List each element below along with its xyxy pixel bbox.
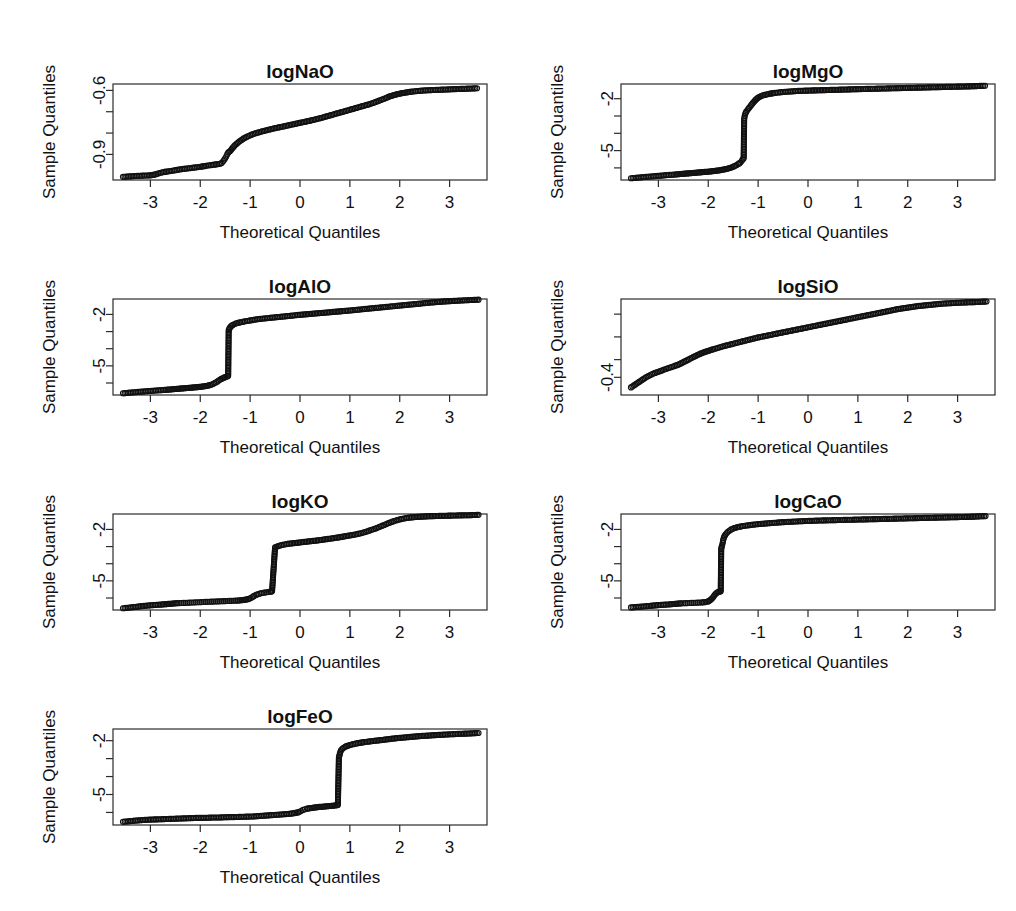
panel-title: logMgO xyxy=(773,62,844,82)
x-tick-label: 3 xyxy=(953,408,962,427)
x-tick-label: -3 xyxy=(143,623,158,642)
x-axis-title: Theoretical Quantiles xyxy=(220,223,381,242)
x-tick-label: 1 xyxy=(853,623,862,642)
x-axis-title: Theoretical Quantiles xyxy=(728,653,889,672)
x-tick-label: -1 xyxy=(243,193,258,212)
x-tick-label: -1 xyxy=(243,623,258,642)
y-tick-label: -5 xyxy=(598,143,617,158)
x-tick-label: -1 xyxy=(751,408,766,427)
x-tick-label: -3 xyxy=(143,838,158,857)
x-axis-title: Theoretical Quantiles xyxy=(728,438,889,457)
plot-frame xyxy=(621,514,995,610)
x-tick-label: 3 xyxy=(953,623,962,642)
x-tick-label: -2 xyxy=(701,408,716,427)
x-tick-label: -1 xyxy=(243,838,258,857)
plot-frame xyxy=(113,84,487,180)
x-tick-label: 1 xyxy=(853,408,862,427)
data-points xyxy=(120,86,479,180)
x-tick-label: 2 xyxy=(395,408,404,427)
x-tick-label: -3 xyxy=(651,193,666,212)
x-tick-label: 3 xyxy=(445,193,454,212)
x-tick-label: 0 xyxy=(295,838,304,857)
data-points xyxy=(120,297,481,396)
x-tick-label: -3 xyxy=(651,623,666,642)
y-axis-title: Sample Quantiles xyxy=(40,710,59,844)
x-tick-label: -3 xyxy=(651,408,666,427)
x-axis-title: Theoretical Quantiles xyxy=(220,438,381,457)
x-tick-label: -2 xyxy=(701,623,716,642)
data-points xyxy=(120,730,481,824)
x-tick-label: -1 xyxy=(751,193,766,212)
x-tick-label: 2 xyxy=(395,623,404,642)
x-tick-label: -2 xyxy=(193,623,208,642)
x-tick-label: 3 xyxy=(445,623,454,642)
x-tick-label: 0 xyxy=(803,408,812,427)
x-tick-label: -2 xyxy=(193,193,208,212)
x-tick-label: 1 xyxy=(345,193,354,212)
data-points xyxy=(120,512,481,610)
panel-title: logFeO xyxy=(267,707,332,727)
x-axis-title: Theoretical Quantiles xyxy=(220,868,381,887)
y-tick-label: -0.9 xyxy=(90,140,109,169)
x-axis-title: Theoretical Quantiles xyxy=(220,653,381,672)
x-tick-label: -1 xyxy=(243,408,258,427)
plot-frame xyxy=(621,84,995,180)
y-axis-title: Sample Quantiles xyxy=(40,65,59,199)
x-tick-label: 3 xyxy=(445,408,454,427)
x-tick-label: -2 xyxy=(193,838,208,857)
x-tick-label: -1 xyxy=(751,623,766,642)
data-points xyxy=(628,299,989,390)
y-tick-label: -2 xyxy=(598,522,617,537)
qq-panel-logFeO: logFeO-3-2-10123-2-5Theoretical Quantile… xyxy=(0,707,508,911)
qq-panel-logMgO: logMgO-3-2-10123-2-5Theoretical Quantile… xyxy=(508,62,1016,277)
x-tick-label: 1 xyxy=(345,408,354,427)
y-axis-title: Sample Quantiles xyxy=(548,65,567,199)
x-tick-label: 2 xyxy=(903,408,912,427)
x-tick-label: 3 xyxy=(445,838,454,857)
y-tick-label: -5 xyxy=(598,573,617,588)
x-tick-label: -2 xyxy=(701,193,716,212)
plot-frame xyxy=(621,299,995,395)
panel-title: logAlO xyxy=(269,277,331,297)
x-tick-label: 0 xyxy=(803,193,812,212)
qq-panel-logAlO: logAlO-3-2-10123-2-5Theoretical Quantile… xyxy=(0,277,508,492)
y-axis-title: Sample Quantiles xyxy=(548,280,567,414)
y-tick-label: -0.4 xyxy=(598,363,617,392)
y-axis-title: Sample Quantiles xyxy=(40,495,59,629)
x-tick-label: -3 xyxy=(143,408,158,427)
qq-plot-grid: logNaO-3-2-10123-0.6-0.9Theoretical Quan… xyxy=(0,0,1016,911)
data-points xyxy=(628,514,988,610)
x-tick-label: 1 xyxy=(345,838,354,857)
y-tick-label: -5 xyxy=(90,787,109,802)
x-tick-label: 2 xyxy=(395,193,404,212)
panel-title: logNaO xyxy=(266,62,334,82)
y-tick-label: -2 xyxy=(90,522,109,537)
data-points xyxy=(628,83,987,181)
x-tick-label: 0 xyxy=(295,408,304,427)
x-tick-label: 1 xyxy=(853,193,862,212)
qq-panel-logNaO: logNaO-3-2-10123-0.6-0.9Theoretical Quan… xyxy=(0,62,508,277)
y-tick-label: -5 xyxy=(90,573,109,588)
y-tick-label: -2 xyxy=(90,307,109,322)
x-tick-label: 1 xyxy=(345,623,354,642)
qq-panel-logSiO: logSiO-3-2-10123-0.4Theoretical Quantile… xyxy=(508,277,1016,492)
x-axis-title: Theoretical Quantiles xyxy=(728,223,889,242)
x-tick-label: 0 xyxy=(803,623,812,642)
y-tick-label: -2 xyxy=(90,733,109,748)
qq-panel-logCaO: logCaO-3-2-10123-2-5Theoretical Quantile… xyxy=(508,492,1016,707)
y-tick-label: -2 xyxy=(598,91,617,106)
x-tick-label: -2 xyxy=(193,408,208,427)
qq-panel-logKO: logKO-3-2-10123-2-5Theoretical Quantiles… xyxy=(0,492,508,707)
panel-title: logCaO xyxy=(774,492,842,512)
x-tick-label: 0 xyxy=(295,193,304,212)
plot-frame xyxy=(113,514,487,610)
y-axis-title: Sample Quantiles xyxy=(40,280,59,414)
y-tick-label: -0.6 xyxy=(90,76,109,105)
x-tick-label: 2 xyxy=(903,193,912,212)
x-tick-label: 3 xyxy=(953,193,962,212)
y-tick-label: -5 xyxy=(90,358,109,373)
x-tick-label: 0 xyxy=(295,623,304,642)
panel-title: logKO xyxy=(272,492,329,512)
panel-title: logSiO xyxy=(777,277,838,297)
x-tick-label: 2 xyxy=(903,623,912,642)
